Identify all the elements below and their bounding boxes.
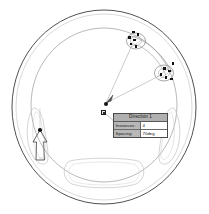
rotation-axis-icon[interactable] [101, 110, 106, 115]
outer-rim-outline[interactable] [12, 10, 196, 204]
pattern-callout-dialog[interactable]: Direction 1 Instances: 4 Spacing: 70deg [113, 113, 168, 138]
selection-handle[interactable] [168, 70, 171, 73]
model-canvas[interactable] [0, 0, 209, 214]
selection-handle[interactable] [165, 76, 168, 79]
axis-leader-line-1 [106, 43, 133, 103]
selection-handle[interactable] [132, 31, 135, 34]
callout-row-instances[interactable]: Instances: 4 [114, 122, 167, 130]
selection-handle[interactable] [172, 62, 175, 65]
selection-handle[interactable] [135, 45, 138, 48]
direction-reference-point[interactable] [38, 128, 41, 131]
pattern-preview-arc-outer [131, 36, 172, 72]
selection-handle[interactable] [160, 73, 163, 76]
callout-title: Direction 1 [114, 114, 167, 122]
bottom-grip-pad-inner [69, 162, 139, 185]
selection-handle[interactable] [170, 78, 173, 81]
left-grip-pad[interactable] [27, 108, 48, 164]
selection-handle[interactable] [128, 36, 131, 39]
axis-leader-line-2 [106, 75, 161, 103]
selection-handle[interactable] [137, 33, 140, 36]
spacing-label: Spacing: [114, 130, 141, 137]
outer-rim-inner-edge [16, 14, 192, 200]
spacing-value[interactable]: 70deg [141, 130, 167, 137]
instances-value[interactable]: 4 [141, 122, 167, 129]
callout-row-spacing[interactable]: Spacing: 70deg [114, 130, 167, 137]
direction-arrow-icon[interactable] [33, 130, 47, 160]
selection-handle[interactable] [133, 39, 136, 42]
selection-handle[interactable] [130, 43, 133, 46]
bottom-grip-pad[interactable] [64, 158, 144, 188]
instances-label: Instances: [114, 122, 141, 129]
cad-graphics-area[interactable]: Direction 1 Instances: 4 Spacing: 70deg [0, 0, 209, 214]
selection-handle[interactable] [163, 67, 166, 70]
